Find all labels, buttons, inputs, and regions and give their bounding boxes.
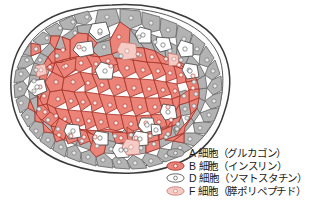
- legend-label-b-cell: B 細胞（インスリン）: [189, 160, 287, 173]
- oval-cell-white-icon: [166, 173, 185, 183]
- legend: A 細胞（グルカゴン） B 細胞（インスリン） D 細胞（ソマトスタチン）: [166, 147, 310, 197]
- legend-label-a-cell: A 細胞（グルカゴン）: [189, 147, 286, 160]
- legend-item-f-cell[interactable]: F 細胞（膵ポリペプチド）: [166, 185, 310, 198]
- legend-item-d-cell[interactable]: D 細胞（ソマトスタチン）: [166, 172, 310, 185]
- legend-item-a-cell[interactable]: A 細胞（グルカゴン）: [166, 147, 310, 160]
- legend-item-b-cell[interactable]: B 細胞（インスリン）: [166, 160, 310, 173]
- legend-label-f-cell: F 細胞（膵ポリペプチド）: [189, 185, 306, 198]
- islet-cell-mass: [14, 9, 222, 169]
- oval-cell-gray-icon: [166, 148, 185, 158]
- oval-cell-pink-icon: [166, 186, 185, 196]
- legend-label-d-cell: D 細胞（ソマトスタチン）: [189, 172, 307, 185]
- islet-figure: A 細胞（グルカゴン） B 細胞（インスリン） D 細胞（ソマトスタチン）: [0, 0, 310, 210]
- oval-cell-salmon-icon: [166, 161, 185, 171]
